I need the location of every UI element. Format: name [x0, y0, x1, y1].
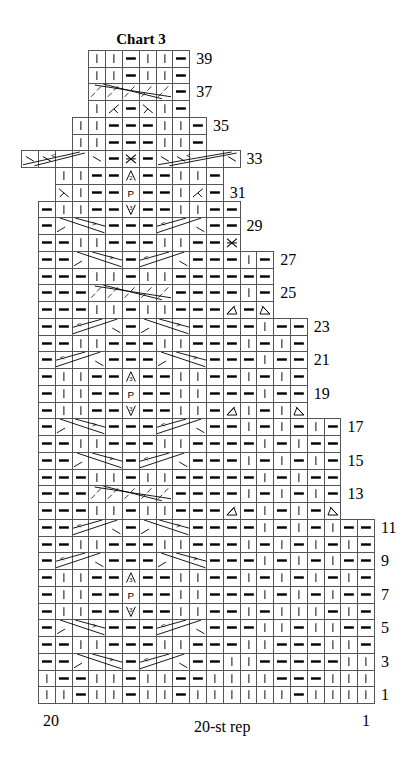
purl-stitch-icon [122, 418, 140, 436]
knit-stitch-icon [240, 536, 258, 554]
purl-stitch-icon [139, 335, 157, 353]
cable-cell [189, 217, 207, 235]
purl-stitch-icon [357, 519, 375, 537]
purl-stitch-icon [172, 83, 190, 101]
purl-stitch-icon [38, 318, 56, 336]
purl-stitch-icon [223, 217, 241, 235]
purl-stitch-icon [206, 603, 224, 621]
cable-cell [88, 653, 106, 671]
row-number-label: 25 [280, 285, 296, 301]
row-number-label: 19 [314, 386, 330, 402]
purl-stitch-icon [38, 619, 56, 637]
purl-stitch-icon [139, 201, 157, 219]
cross-stitch-icon [122, 150, 140, 168]
purl-stitch-icon [172, 502, 190, 520]
knit-stitch-icon [290, 552, 308, 570]
increase-2-icon: 2 [122, 167, 140, 185]
row-number-label: 9 [381, 553, 389, 569]
knit-stitch-icon [256, 435, 274, 453]
purl-stitch-icon [38, 603, 56, 621]
purl-stitch-icon [256, 603, 274, 621]
purl-stitch-icon [38, 234, 56, 252]
purl-stitch-icon [172, 67, 190, 85]
knit-stitch-icon [156, 50, 174, 68]
purl-stitch-icon [105, 636, 123, 654]
purl-stitch-icon [357, 552, 375, 570]
purl-stitch-icon [139, 184, 157, 202]
purl-stitch-icon [72, 485, 90, 503]
purl-stitch-icon [240, 301, 258, 319]
cable-cell [156, 452, 174, 470]
knit-stitch-icon [307, 603, 325, 621]
purl-stitch-icon [122, 502, 140, 520]
knit-stitch-icon [72, 636, 90, 654]
purl-stitch-icon [206, 569, 224, 587]
purl-stitch-icon [88, 402, 106, 420]
purl-stitch-icon [156, 184, 174, 202]
knit-stitch-icon [88, 117, 106, 135]
purl-stitch-icon [290, 385, 308, 403]
purl-stitch-icon [324, 435, 342, 453]
cable-cell [105, 83, 123, 101]
purl-stitch-icon [105, 619, 123, 637]
purl-stitch-icon [105, 167, 123, 185]
purl-stitch-icon [357, 603, 375, 621]
row-number-label: 27 [280, 252, 296, 268]
purl-stitch-icon [139, 636, 157, 654]
cable-cell [156, 485, 174, 503]
row-number-label: 35 [213, 118, 229, 134]
purl-stitch-icon [122, 686, 140, 704]
knit-stitch-icon [189, 368, 207, 386]
knitting-chart-grid: 1><3><53P73<>9<>1113><15><173P193<>21<>2… [0, 0, 420, 768]
purl-stitch-icon [172, 686, 190, 704]
purl-stitch-icon [189, 251, 207, 269]
purl-stitch-icon [38, 385, 56, 403]
purl-stitch-icon [105, 536, 123, 554]
purl-stitch-icon [223, 251, 241, 269]
purl-stitch-icon [273, 636, 291, 654]
purl-stitch-icon [139, 150, 157, 168]
purl-stitch-icon [105, 134, 123, 152]
knit-stitch-icon [55, 201, 73, 219]
knit-stitch-icon [240, 636, 258, 654]
purl-stitch-icon [240, 385, 258, 403]
cable-cell [156, 217, 174, 235]
knit-stitch-icon [88, 670, 106, 688]
row-number-label: 5 [381, 620, 389, 636]
knit-stitch-icon [38, 670, 56, 688]
purl-stitch-icon [55, 318, 73, 336]
purl-stitch-icon [72, 268, 90, 286]
knit-stitch-icon [88, 536, 106, 554]
knit-stitch-icon [256, 351, 274, 369]
knit-stitch-icon [172, 603, 190, 621]
knit-stitch-icon [72, 167, 90, 185]
backslash-icon [172, 150, 190, 168]
purl-stitch-icon [139, 217, 157, 235]
decrease-3-icon: 3 [122, 402, 140, 420]
knit-stitch-icon [156, 117, 174, 135]
knit-stitch-icon [156, 234, 174, 252]
purl-stitch-icon [324, 452, 342, 470]
purl-stitch-icon [139, 167, 157, 185]
purl-stitch-icon [340, 552, 358, 570]
purl-stitch-icon [240, 552, 258, 570]
purl-stitch-icon [340, 519, 358, 537]
svg-text:3: 3 [129, 607, 132, 613]
purl-stitch-icon [156, 167, 174, 185]
purl-stitch-icon [139, 385, 157, 403]
knit-stitch-icon [223, 686, 241, 704]
purl-stitch-icon [105, 217, 123, 235]
knit-stitch-icon [172, 536, 190, 554]
backslash-icon [38, 150, 56, 168]
knit-stitch-icon [273, 569, 291, 587]
purl-stitch-icon [105, 418, 123, 436]
purl-stitch-icon [223, 418, 241, 436]
purl-stitch-icon [122, 619, 140, 637]
knit-stitch-icon [55, 167, 73, 185]
purl-stitch-icon [88, 184, 106, 202]
purl-stitch-icon [256, 452, 274, 470]
purl-stitch-icon [206, 234, 224, 252]
purl-stitch-icon [122, 67, 140, 85]
purl-stitch-icon [206, 653, 224, 671]
purl-stitch-icon [223, 268, 241, 286]
